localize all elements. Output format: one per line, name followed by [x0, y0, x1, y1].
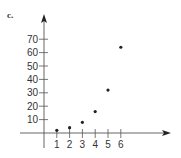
y-tick-label: 50 — [27, 61, 39, 72]
x-tick-label: 4 — [92, 139, 98, 150]
data-point — [55, 129, 58, 132]
data-point — [81, 121, 84, 124]
data-point — [94, 110, 97, 113]
x-tick-label: 1 — [54, 139, 60, 150]
y-tick-label: 70 — [27, 34, 39, 45]
y-tick-label: 40 — [27, 74, 39, 85]
y-tick-label: 60 — [27, 47, 39, 58]
scatter-chart: 12345610203040506070 — [0, 0, 181, 158]
data-point — [68, 126, 71, 129]
data-point — [119, 46, 122, 49]
y-tick-label: 20 — [27, 101, 39, 112]
y-tick-label: 10 — [27, 114, 39, 125]
x-tick-label: 3 — [80, 139, 86, 150]
x-tick-label: 5 — [105, 139, 111, 150]
x-tick-label: 2 — [67, 139, 73, 150]
x-tick-label: 6 — [118, 139, 124, 150]
y-tick-label: 30 — [27, 87, 39, 98]
data-point — [106, 89, 109, 92]
